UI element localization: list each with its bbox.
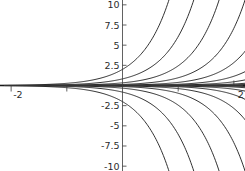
y-tick-label: -10 — [104, 161, 120, 171]
y-tick-label: 10 — [107, 0, 119, 10]
solution-curve — [0, 0, 173, 85]
axes — [4, 0, 243, 171]
y-tick-label: -7.5 — [101, 140, 120, 151]
solution-curve — [0, 86, 173, 171]
plot-canvas: -22107.552.5-2.5-5-7.5-10 — [0, 0, 245, 171]
x-tick-label: -2 — [13, 89, 22, 100]
y-tick-label: 5 — [113, 40, 119, 51]
y-tick-label: -2.5 — [101, 100, 120, 111]
plot-figure: -22107.552.5-2.5-5-7.5-10 — [0, 0, 245, 171]
x-tick-label: 2 — [238, 89, 244, 100]
y-tick-label: -5 — [110, 120, 119, 131]
y-tick-label: 2.5 — [104, 60, 119, 71]
y-tick-label: 7.5 — [104, 20, 119, 31]
